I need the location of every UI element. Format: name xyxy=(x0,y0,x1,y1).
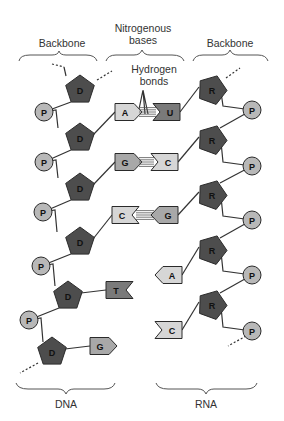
dna-label: DNA xyxy=(55,398,77,410)
dna-sugar-6: D xyxy=(38,337,67,364)
rna-phosphate-5-letter: P xyxy=(249,327,255,337)
dna-sugar-1: D xyxy=(66,75,95,102)
dna-strand: DDDDDDPPPPPAGCTG xyxy=(20,75,156,364)
dna-phosphate-3: P xyxy=(34,203,52,221)
rna-sugar-4: R xyxy=(200,236,227,265)
rna-sugar-1: R xyxy=(200,76,227,105)
dna-base-a: A xyxy=(115,104,142,121)
dna-top-sugar-link xyxy=(64,67,66,76)
rna-base-letter: G xyxy=(164,211,171,221)
rna-base-c: C xyxy=(155,322,182,339)
rna-base-g: G xyxy=(151,207,178,224)
rna-sugar-1-letter: R xyxy=(209,86,216,96)
dna-glycosidic-bond xyxy=(93,215,112,239)
rna-label: RNA xyxy=(195,398,217,410)
hydrogen-bonds-label-line2: bonds xyxy=(140,75,169,87)
rna-sugar-3-letter: R xyxy=(209,191,216,201)
dna-glycosidic-bond xyxy=(93,112,115,135)
dna-rna-diagram: Backbone Nitrogenous bases Backbone Hydr… xyxy=(0,0,284,421)
dna-phosphate-2-letter: P xyxy=(41,158,47,168)
dna-sugar-2: D xyxy=(66,123,95,150)
rna-sugar-3: R xyxy=(200,181,227,210)
backbone-right-label: Backbone xyxy=(207,37,254,49)
rna-sugar-5-letter: R xyxy=(209,301,216,311)
rna-base-letter: C xyxy=(169,326,176,336)
rna-base-letter: C xyxy=(165,158,172,168)
dna-base-t: T xyxy=(106,282,133,299)
nitrogenous-bases-label-line1: Nitrogenous xyxy=(115,22,172,34)
dna-base-g: G xyxy=(90,338,117,355)
dna-sugar-1-letter: D xyxy=(77,86,84,96)
rna-phosphate-4-letter: P xyxy=(249,271,255,281)
dna-phosphate-5-letter: P xyxy=(26,316,32,326)
rna-glycosidic-bond xyxy=(178,192,199,215)
dna-sugar-5: D xyxy=(54,281,83,308)
rna-phosphate-2: P xyxy=(243,157,261,175)
dna-phosphate-1-letter: P xyxy=(41,108,47,118)
backbone-left-label: Backbone xyxy=(39,37,86,49)
rna-phosphate-2-letter: P xyxy=(249,162,255,172)
dna-base-letter: T xyxy=(113,286,119,296)
rna-brace xyxy=(156,383,257,394)
backbone-left-brace xyxy=(19,51,97,61)
dna-sugar-6-letter: D xyxy=(49,348,56,358)
rna-glycosidic-bond xyxy=(178,137,199,162)
rna-base-c: C xyxy=(151,154,178,171)
dna-phosphate-5: P xyxy=(20,311,38,329)
rna-base-letter: U xyxy=(167,108,174,118)
dna-phosphate-3-letter: P xyxy=(40,208,46,218)
dna-sugar-4: D xyxy=(66,227,95,254)
dna-strand-top-right-dashed xyxy=(97,71,112,80)
dna-sugar-2-letter: D xyxy=(77,134,84,144)
rna-strand-bottom-dashed-end xyxy=(228,336,246,346)
rna-glycosidic-bond xyxy=(182,302,199,330)
rna-glycosidic-bond xyxy=(182,247,199,275)
rna-phosphate-3-letter: P xyxy=(249,216,255,226)
dna-phosphate-1: P xyxy=(35,103,53,121)
dna-base-letter: C xyxy=(119,211,126,221)
rna-phosphate-1: P xyxy=(243,101,261,119)
rna-strand: RRRRRPPPPPUCGAC xyxy=(151,76,261,340)
rna-phosphate-4: P xyxy=(243,266,261,284)
rna-strand-top-dashed-end xyxy=(226,68,240,78)
rna-base-u: U xyxy=(153,104,180,121)
rna-phosphate-1-letter: P xyxy=(249,106,255,116)
dna-base-g: G xyxy=(115,154,142,171)
dna-base-letter: G xyxy=(121,158,128,168)
nitrogenous-bases-label-line2: bases xyxy=(129,34,157,46)
dna-phosphate-4-letter: P xyxy=(38,262,44,272)
rna-sugar-2: R xyxy=(200,126,227,154)
rna-phosphate-5: P xyxy=(243,322,261,340)
dna-glycosidic-bond xyxy=(93,162,115,185)
rna-glycosidic-bond xyxy=(180,87,199,112)
dna-strand-bottom-dashed-end xyxy=(20,363,38,373)
backbone-right-brace xyxy=(193,50,268,61)
dna-base-c: C xyxy=(112,207,139,224)
dna-sugar-3-letter: D xyxy=(77,184,84,194)
hydrogen-bonds-label-line1: Hydrogen xyxy=(131,63,177,75)
rna-sugar-4-letter: R xyxy=(209,246,216,256)
rna-base-a: A xyxy=(155,267,182,284)
nitrogenous-bases-brace xyxy=(106,50,184,61)
dna-glycosidic-bond xyxy=(65,346,90,349)
rna-phosphate-3: P xyxy=(243,211,261,229)
rna-sugar-2-letter: R xyxy=(209,136,216,146)
dna-phosphate-2: P xyxy=(35,153,53,171)
dna-sugar-5-letter: D xyxy=(65,292,72,302)
dna-glycosidic-bond xyxy=(81,290,106,293)
dna-base-letter: G xyxy=(96,342,103,352)
dna-sugar-4-letter: D xyxy=(77,238,84,248)
dna-strand-top-dashed-end xyxy=(52,64,64,67)
dna-sugar-3: D xyxy=(66,173,95,200)
dna-phosphate-4: P xyxy=(32,257,50,275)
dna-base-letter: A xyxy=(122,108,129,118)
dna-brace xyxy=(16,383,115,394)
rna-sugar-5: R xyxy=(200,291,227,320)
hydrogen-bonds-2 xyxy=(139,158,154,167)
rna-base-letter: A xyxy=(169,271,176,281)
